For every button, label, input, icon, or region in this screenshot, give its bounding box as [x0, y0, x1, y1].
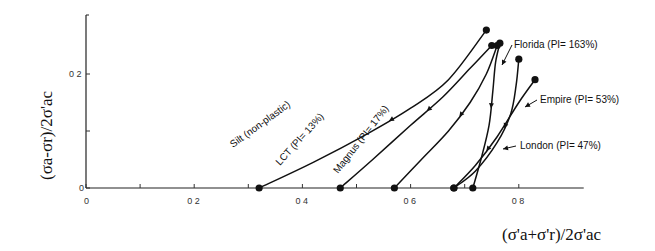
- label-silt: Silt (non-plastic): [228, 99, 292, 150]
- end-point-empire: [531, 76, 538, 83]
- start-point-florida: [469, 184, 476, 191]
- x-tick-label: 0 2: [187, 196, 200, 206]
- label-london: London (PI= 47%): [520, 140, 601, 151]
- curve-silt: [259, 30, 486, 188]
- curves: [256, 27, 539, 192]
- y-tick-label: 0: [79, 183, 84, 193]
- start-point-magnus: [391, 184, 398, 191]
- leader-empire-head: [524, 102, 531, 109]
- stress-path-chart: 00 20 40 60 800 2 Silt (non-plastic)LCT …: [0, 0, 655, 251]
- label-florida: Florida (PI= 163%): [514, 39, 598, 50]
- x-tick-label: 0: [84, 196, 89, 206]
- label-empire: Empire (PI= 53%): [540, 94, 619, 105]
- end-point-silt: [483, 27, 490, 34]
- y-tick-label: 0 2: [69, 69, 82, 79]
- leader-florida-head: [500, 59, 507, 66]
- arrow-florida: [488, 103, 494, 109]
- x-axis-title: (σ'a+σ'r)/2σ'ac: [502, 225, 602, 244]
- curve-empire: [454, 80, 535, 188]
- label-magnus: Magnus (PI= 17%): [331, 103, 391, 175]
- end-point-london: [515, 56, 522, 63]
- y-axis-title: (σa-σr)/2σ'ac: [37, 90, 56, 180]
- x-tick-label: 0 4: [295, 196, 308, 206]
- label-lct: LCT (PI= 13%): [273, 111, 325, 168]
- end-point-florida: [496, 40, 503, 47]
- curve-london: [454, 59, 519, 188]
- curve-florida: [473, 43, 500, 188]
- start-point-lct: [337, 184, 344, 191]
- x-tick-label: 0 6: [404, 196, 417, 206]
- x-tick-label: 0 8: [512, 196, 525, 206]
- curve-magnus: [394, 46, 497, 189]
- start-point-london: [450, 184, 457, 191]
- start-point-silt: [256, 184, 263, 191]
- curve-labels: Silt (non-plastic)LCT (PI= 13%)Magnus (P…: [228, 39, 619, 175]
- curve-lct: [340, 46, 491, 189]
